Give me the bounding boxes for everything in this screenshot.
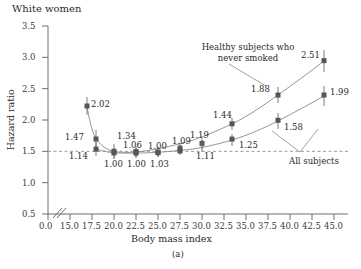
panel-caption: (a) [172, 250, 184, 259]
data-label-1-47: 1.47 [65, 133, 84, 142]
y-tick-label-2-0: 2.0 [22, 116, 36, 125]
x-tick-label-27-5: 27.5 [170, 222, 189, 231]
data-label-1-25: 1.25 [239, 141, 258, 150]
y-axis-title: Hazard ratio [6, 85, 16, 155]
chart-title: White women [12, 4, 81, 14]
data-label-1-09: 1.09 [172, 137, 191, 146]
x-tick-label-30-0: 30.0 [192, 222, 211, 231]
y-tick-label-3-5: 3.5 [22, 22, 36, 31]
data-label-1-00-lower-b: 1.00 [127, 160, 146, 169]
data-label-1-00-upper: 1.00 [148, 142, 167, 151]
annotation-all-subjects: All subjects [289, 157, 339, 166]
data-label-2-02: 2.02 [91, 100, 110, 109]
x-tick-label-22-5: 22.5 [126, 222, 145, 231]
x-axis-ticks [48, 214, 334, 220]
data-label-2-51: 2.51 [301, 51, 320, 60]
y-tick-label-1-0: 1.0 [22, 179, 36, 188]
x-axis-title: Body mass index [131, 234, 212, 244]
x-tick-label-15-0: 15.0 [60, 222, 79, 231]
annotation-healthy-never-smoked: Healthy subjects who never smoked [196, 42, 300, 63]
data-label-1-99: 1.99 [330, 88, 349, 97]
data-label-1-11: 1.11 [196, 152, 215, 161]
data-label-1-03: 1.03 [150, 160, 169, 169]
x-tick-label-32-5: 32.5 [214, 222, 233, 231]
annotation-healthy-line1: Healthy subjects who [202, 42, 295, 52]
annotation-healthy-line2: never smoked [218, 53, 278, 63]
leader-line-all-1 [300, 129, 318, 152]
data-label-1-06: 1.06 [123, 141, 142, 150]
y-tick-label-0-5: 0.5 [22, 210, 36, 219]
x-tick-label-45-0: 45.0 [324, 222, 343, 231]
x-tick-label-20-0: 20.0 [104, 222, 123, 231]
x-tick-label-25-0: 25.0 [148, 222, 167, 231]
x-tick-label-42-5: 42.5 [302, 222, 321, 231]
leader-line-healthy [229, 64, 266, 86]
data-label-1-44: 1.44 [213, 111, 232, 120]
data-label-1-88: 1.88 [251, 85, 270, 94]
x-tick-label-0-0: 0.0 [39, 222, 53, 231]
x-tick-label-40-0: 40.0 [280, 222, 299, 231]
hazard-ratio-figure: White women Body mass index (a) Hazard r… [0, 0, 361, 269]
x-tick-label-37-5: 37.5 [258, 222, 277, 231]
y-tick-label-2-5: 2.5 [22, 85, 36, 94]
axis-break-marks [53, 208, 66, 218]
y-axis-ticks [42, 26, 48, 214]
y-tick-label-1-5: 1.5 [22, 147, 36, 156]
data-label-1-58: 1.58 [284, 123, 303, 132]
data-label-1-00-lower-a: 1.00 [104, 160, 123, 169]
data-label-1-14: 1.14 [69, 152, 88, 161]
leader-line-all-2 [272, 131, 300, 152]
y-tick-label-3-0: 3.0 [22, 53, 36, 62]
x-tick-label-17-5: 17.5 [82, 222, 101, 231]
data-label-1-19: 1.19 [190, 131, 209, 140]
x-tick-label-35-0: 35.0 [236, 222, 255, 231]
